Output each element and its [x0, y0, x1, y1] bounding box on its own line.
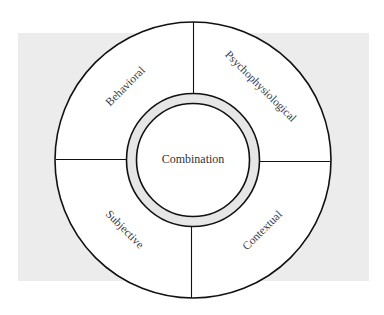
measurement-wheel-diagram: Combination Behavioral Psychophysiologic… — [0, 0, 384, 315]
center-label: Combination — [162, 152, 225, 166]
